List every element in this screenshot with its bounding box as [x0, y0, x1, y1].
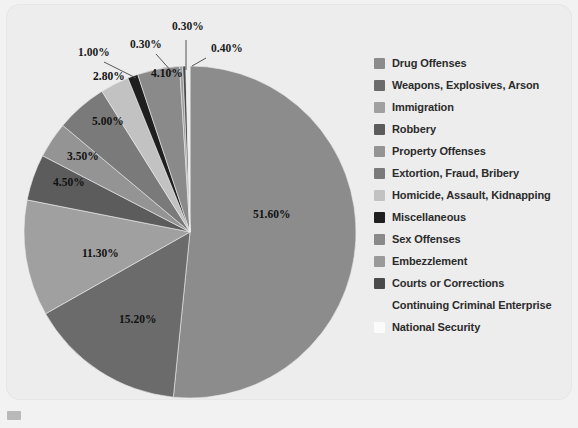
pie-data-label: 0.30%	[130, 38, 162, 50]
legend-color-swatch	[374, 102, 385, 113]
pie-chart-svg: 51.60%15.20%11.30%4.50%3.50%5.00%2.80%4.…	[0, 0, 400, 428]
pie-data-label: 4.10%	[151, 67, 183, 79]
legend-item[interactable]: Homicide, Assault, Kidnapping	[374, 184, 570, 206]
pie-data-label: 1.00%	[78, 46, 110, 58]
legend-item-label: Sex Offenses	[392, 233, 461, 245]
chart-canvas: 51.60%15.20%11.30%4.50%3.50%5.00%2.80%4.…	[0, 0, 578, 428]
legend-item-label: Immigration	[392, 101, 454, 113]
legend-item[interactable]: Sex Offenses	[374, 228, 570, 250]
legend-item[interactable]: Courts or Corrections	[374, 272, 570, 294]
legend-item-label: Embezzlement	[392, 255, 467, 267]
pie-slices	[24, 66, 356, 398]
legend-color-swatch	[374, 58, 385, 69]
legend-item-label: National Security	[392, 321, 480, 333]
leader-line	[192, 58, 206, 66]
pie-data-label: 4.50%	[53, 176, 85, 188]
chart-legend: Drug OffensesWeapons, Explosives, ArsonI…	[374, 52, 570, 338]
legend-item[interactable]: Embezzlement	[374, 250, 570, 272]
legend-color-swatch	[374, 190, 385, 201]
legend-color-swatch	[374, 322, 385, 333]
legend-item[interactable]: Robbery	[374, 118, 570, 140]
pie-data-label: 5.00%	[92, 115, 124, 127]
legend-color-swatch	[374, 278, 385, 289]
legend-item-label: Robbery	[392, 123, 436, 135]
pie-data-label: 0.40%	[211, 42, 243, 54]
legend-item[interactable]: Weapons, Explosives, Arson	[374, 74, 570, 96]
pie-chart-area: 51.60%15.20%11.30%4.50%3.50%5.00%2.80%4.…	[0, 0, 400, 428]
legend-item-label: Miscellaneous	[392, 211, 466, 223]
pie-data-label: 51.60%	[253, 208, 290, 220]
legend-item[interactable]: National Security	[374, 316, 570, 338]
legend-item[interactable]: Drug Offenses	[374, 52, 570, 74]
pie-data-label: 11.30%	[82, 247, 119, 259]
legend-item-label: Courts or Corrections	[392, 277, 504, 289]
legend-color-swatch	[374, 146, 385, 157]
legend-item-label: Drug Offenses	[392, 57, 467, 69]
pie-data-label: 0.30%	[172, 20, 204, 32]
legend-item-label: Weapons, Explosives, Arson	[392, 79, 539, 91]
legend-item[interactable]: Continuing Criminal Enterprise	[374, 294, 570, 316]
legend-item[interactable]: Miscellaneous	[374, 206, 570, 228]
legend-item-label: Extortion, Fraud, Bribery	[392, 167, 519, 179]
legend-item-label: Continuing Criminal Enterprise	[392, 299, 552, 311]
legend-color-swatch	[374, 256, 385, 267]
pie-data-label: 2.80%	[93, 70, 125, 82]
legend-color-swatch	[374, 124, 385, 135]
legend-color-swatch	[374, 300, 385, 311]
legend-item-label: Property Offenses	[392, 145, 486, 157]
legend-item-label: Homicide, Assault, Kidnapping	[392, 189, 551, 201]
legend-color-swatch	[374, 212, 385, 223]
legend-color-swatch	[374, 80, 385, 91]
pie-data-label: 15.20%	[119, 313, 156, 325]
legend-item[interactable]: Extortion, Fraud, Bribery	[374, 162, 570, 184]
legend-color-swatch	[374, 168, 385, 179]
legend-item[interactable]: Immigration	[374, 96, 570, 118]
pie-slice[interactable]	[173, 66, 356, 398]
pie-data-label: 3.50%	[67, 150, 99, 162]
legend-color-swatch	[374, 234, 385, 245]
legend-item[interactable]: Property Offenses	[374, 140, 570, 162]
